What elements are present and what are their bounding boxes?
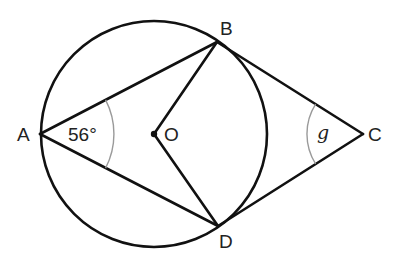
segment-ad [40,134,218,226]
segment-ab [40,42,217,134]
label-d: D [219,231,233,252]
label-b: B [220,18,233,39]
segment-ob [154,42,217,134]
label-a: A [17,124,30,145]
angle-arc-c [307,104,316,164]
label-o: O [164,124,179,145]
label-c: C [368,124,382,145]
angle-label-a: 56° [68,124,97,145]
tangent-dc [218,134,363,226]
angle-arc-a [106,100,114,168]
segment-od [154,134,218,226]
centre-point-o [151,131,157,137]
geometry-diagram: A B C D O 56° g [0,0,399,270]
tangent-bc [217,42,363,134]
angle-label-c: g [317,121,329,143]
